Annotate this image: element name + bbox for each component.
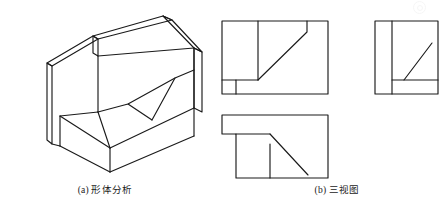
right-side-view <box>375 21 438 94</box>
figure-root: (a) 形体分析 (b) 三视图 <box>0 0 444 208</box>
caption-form-analysis: (a) 形体分析 <box>0 182 210 196</box>
pictorial-step-top-front-edge <box>60 116 110 148</box>
top-view-outline <box>222 115 328 178</box>
technical-drawing-canvas <box>0 0 444 208</box>
pictorial-roof-left-plane <box>93 16 172 39</box>
isometric-pictorial <box>47 16 202 172</box>
pictorial-step-riser-edge <box>98 112 110 148</box>
top-view-inclined-edge <box>270 134 308 175</box>
top-view <box>222 115 328 178</box>
pictorial-left-slab-top <box>47 36 98 66</box>
pictorial-step-bottom-front-edge <box>60 146 110 172</box>
front-view <box>222 21 328 94</box>
caption-three-views: (b) 三视图 <box>232 182 442 196</box>
front-view-inclined-edge <box>258 21 307 80</box>
front-view-step-notch <box>222 80 236 94</box>
pictorial-right-end-face <box>194 48 202 112</box>
pictorial-roof-right-plane <box>163 16 202 52</box>
side-view-inclined-edge <box>404 43 432 80</box>
pictorial-slab-bottom-connector <box>52 144 60 146</box>
side-view-outline <box>375 21 438 94</box>
front-view-outline <box>222 21 328 94</box>
pictorial-incline-upper-edge <box>98 70 194 112</box>
pictorial-left-slab-face <box>47 63 52 144</box>
pictorial-backwall-top-edge <box>98 48 194 56</box>
pictorial-step-left-edge <box>60 112 98 116</box>
pictorial-incline-crease-a <box>128 104 152 120</box>
faint-circular-watermark <box>413 1 426 14</box>
